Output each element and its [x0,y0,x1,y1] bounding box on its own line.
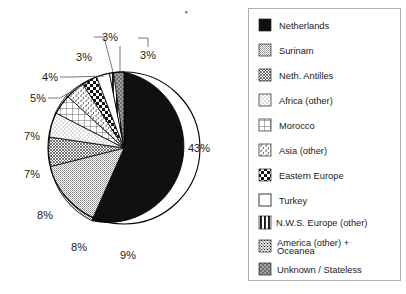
legend-label-morocco: Morocco [279,121,315,131]
pct-label-nws-europe: 3% [76,51,92,63]
legend-item-africa-other[interactable]: Africa (other) [259,94,333,106]
legend-item-neth-antilles[interactable]: Neth. Antilles [259,69,334,81]
legend-swatch-neth-antilles [259,69,271,81]
legend-panel: Netherlands Surinam Neth. Antilles Afric… [249,9,401,281]
pct-label-africa: 8% [37,209,53,221]
pct-label-america-oceanea: 3% [102,31,118,43]
legend-label-turkey: Turkey [279,196,307,206]
legend-label-netherlands: Netherlands [279,21,329,31]
legend-swatch-america-oceanea [259,240,271,252]
legend-item-turkey[interactable]: Turkey [259,194,307,206]
legend-label-neth-antilles: Neth. Antilles [279,71,334,81]
pct-label-netherlands: 43% [188,142,210,154]
legend-swatch-eastern-europe [259,169,271,181]
legend-swatch-turkey [259,194,271,206]
pct-label-neth-antilles: 8% [71,241,87,253]
legend-label-eastern-europe: Eastern Europe [279,171,344,181]
legend-item-morocco[interactable]: Morocco [259,119,315,131]
scan-speck [185,11,188,14]
legend-swatch-unknown-stateless [259,263,271,275]
legend-swatch-nws-europe-other [259,216,271,229]
legend-item-netherlands[interactable]: Netherlands [259,19,329,31]
legend-swatch-morocco [259,119,271,131]
legend-label-africa-other: Africa (other) [279,96,333,106]
legend-label-nws-europe-other: N.W.S. Europe (other) [276,218,367,228]
pct-label-surinam: 9% [120,249,136,261]
pct-label-asia: 7% [24,130,40,142]
pct-label-eastern-europe: 5% [30,92,46,104]
legend-swatch-asia-other [259,144,271,156]
legend-label-asia-other: Asia (other) [279,146,327,156]
legend-label-america-oceanea-line2: Oceanea [277,246,316,256]
pct-label-morocco: 7% [24,168,40,180]
legend-label-surinam: Surinam [279,46,314,56]
legend-swatch-africa-other [259,94,271,106]
legend-item-surinam[interactable]: Surinam [259,44,314,56]
legend-item-nws-europe-other[interactable]: N.W.S. Europe (other) [259,216,367,229]
legend-label-unknown-stateless: Unknown / Stateless [277,265,362,275]
pct-label-unknown: 3% [140,49,156,61]
legend-swatch-netherlands [259,19,271,31]
pct-label-turkey: 4% [42,71,58,83]
legend-swatch-surinam [259,44,271,56]
pie-chart-figure: 43% 9% 8% 8% 7% 7% 5% 4% 3% 3% 3% Nether… [0,0,406,294]
legend-item-asia-other[interactable]: Asia (other) [259,144,327,156]
